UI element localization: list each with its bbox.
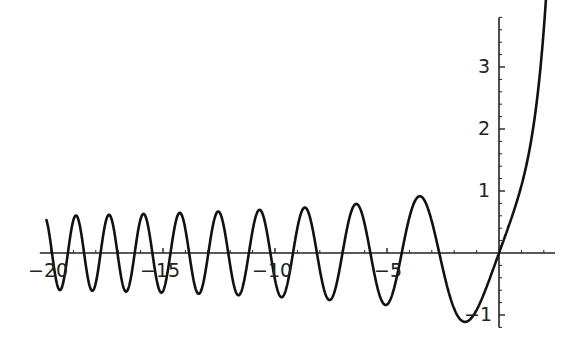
x-tick-label-neg20: −20 — [28, 259, 68, 281]
x-tick-label-neg5: −5 — [374, 259, 402, 281]
y-tick-label-1: 1 — [478, 179, 490, 201]
y-tick-label-neg1: −1 — [464, 303, 492, 325]
y-tick-label-2: 2 — [478, 117, 490, 139]
solution-curve — [46, 0, 550, 322]
tick-labels: −20 −15 −10 −5 3 2 1 −1 — [28, 55, 492, 325]
y-tick-label-3: 3 — [478, 55, 490, 77]
x-tick-label-neg10: −10 — [252, 259, 292, 281]
x-tick-label-neg15: −15 — [140, 259, 180, 281]
airy-plot: −20 −15 −10 −5 3 2 1 −1 — [0, 0, 579, 343]
